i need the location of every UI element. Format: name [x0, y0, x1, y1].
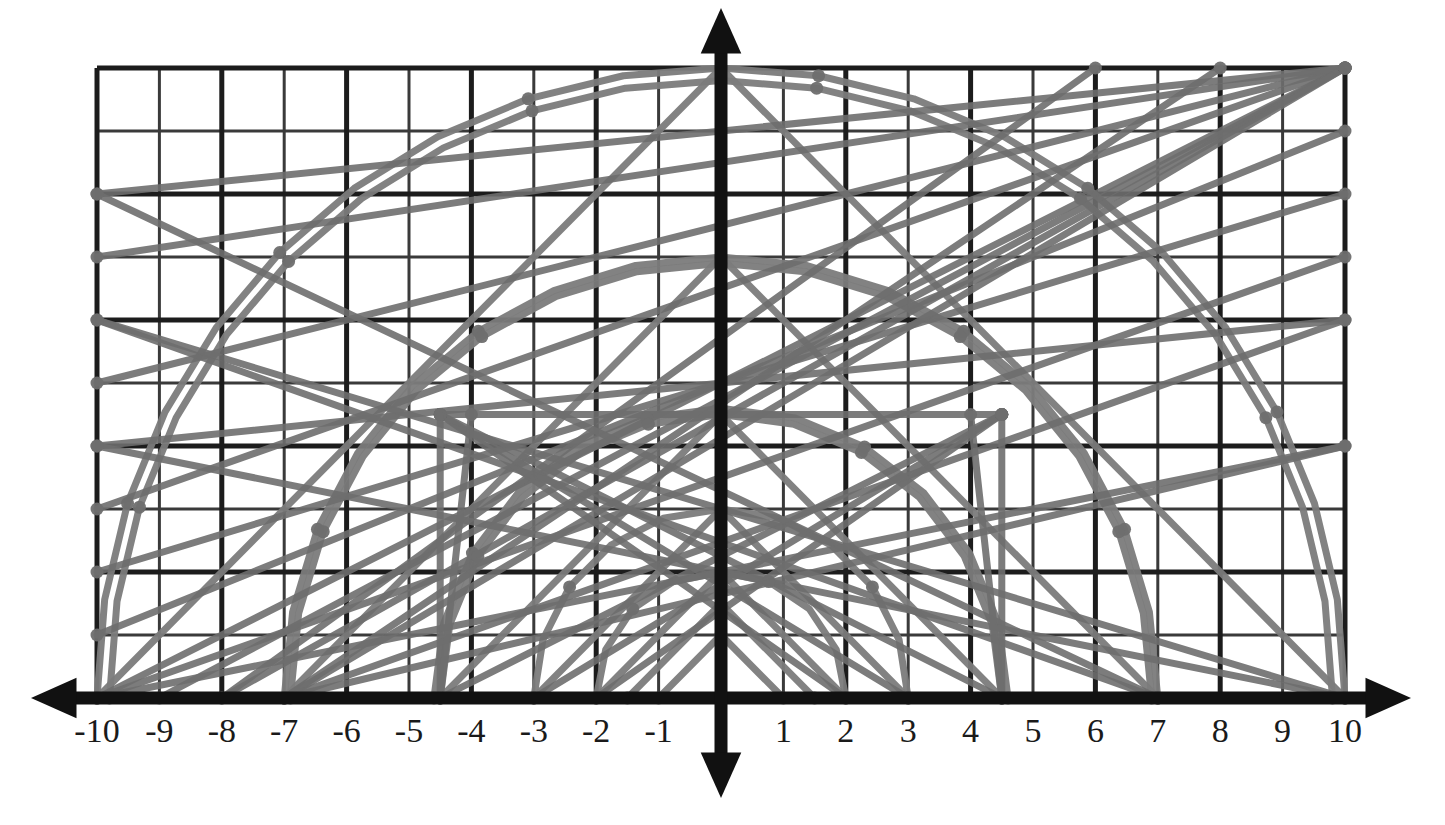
data-point-marker [1339, 440, 1352, 453]
data-point-marker [812, 69, 825, 82]
axis-arrowhead-right [1366, 678, 1412, 719]
data-point-marker [282, 255, 295, 268]
x-tick-label: 10 [1328, 712, 1362, 749]
data-segment [971, 415, 1002, 699]
data-point-marker [91, 566, 104, 579]
data-point-marker [91, 251, 104, 264]
data-point-marker [522, 92, 535, 105]
axis-arrowhead-down [701, 753, 742, 799]
axis-arrowhead-up [701, 8, 742, 54]
x-tick-label: 5 [1025, 712, 1042, 749]
data-point-marker [91, 629, 104, 642]
data-point-marker [475, 330, 488, 343]
data-point-marker [1339, 62, 1352, 75]
data-point-marker [626, 602, 639, 615]
data-point-marker [121, 497, 134, 510]
data-point-marker [762, 575, 775, 588]
data-point-marker [317, 525, 330, 538]
coordinate-plane-svg: -10-9-8-7-6-5-4-3-2-112345678910 [0, 0, 1445, 825]
data-point-marker [866, 580, 879, 593]
data-point-marker [1339, 251, 1352, 264]
data-point-marker [471, 550, 484, 563]
data-point-marker [1214, 62, 1227, 75]
data-point-marker [995, 408, 1008, 421]
data-point-marker [465, 408, 478, 421]
data-point-marker [563, 580, 576, 593]
data-point-marker [434, 408, 447, 421]
x-tick-label: -7 [270, 712, 298, 749]
x-tick-label: 8 [1212, 712, 1229, 749]
x-tick-label: -6 [332, 712, 360, 749]
axis-layer [31, 8, 1411, 798]
data-point-marker [964, 408, 977, 421]
data-point-marker [1339, 125, 1352, 138]
graph-canvas: -10-9-8-7-6-5-4-3-2-112345678910 [0, 0, 1445, 825]
x-tick-label: 6 [1087, 712, 1104, 749]
data-point-marker [91, 440, 104, 453]
x-tick-label: -8 [208, 712, 236, 749]
data-point-marker [1339, 188, 1352, 201]
data-point-marker [1259, 411, 1272, 424]
data-point-marker [1112, 525, 1125, 538]
x-tick-label: -3 [520, 712, 548, 749]
data-point-marker [855, 446, 868, 459]
x-tick-label: -1 [644, 712, 672, 749]
data-point-marker [91, 314, 104, 327]
data-point-marker [91, 503, 104, 516]
x-tick-label: 2 [837, 712, 854, 749]
x-tick-label: -10 [74, 712, 119, 749]
data-point-marker [1089, 62, 1102, 75]
x-tick-label: 1 [775, 712, 792, 749]
axis-arrowhead-left [31, 678, 77, 719]
x-tick-label: -4 [457, 712, 485, 749]
x-tick-label: -9 [145, 712, 173, 749]
data-point-marker [1270, 405, 1283, 418]
data-point-marker [133, 501, 146, 514]
x-tick-label: -5 [395, 712, 423, 749]
x-tick-label: 7 [1149, 712, 1166, 749]
x-tick-label: 3 [900, 712, 917, 749]
data-point-marker [1339, 314, 1352, 327]
data-point-marker [91, 188, 104, 201]
data-point-marker [810, 82, 823, 95]
data-point-marker [526, 104, 539, 117]
data-point-marker [91, 377, 104, 390]
data-point-marker [954, 330, 967, 343]
x-tick-label: -2 [582, 712, 610, 749]
data-point-marker [642, 418, 655, 431]
x-tick-label: 4 [962, 712, 979, 749]
x-tick-label: 9 [1274, 712, 1291, 749]
data-point-marker [1074, 192, 1087, 205]
